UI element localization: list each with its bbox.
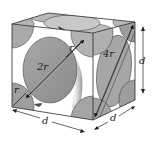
label-2r: 2r xyxy=(36,61,49,72)
fcc-unit-cell-diagram: r r 2r 4r d d d xyxy=(0,0,154,145)
label-d-front: d xyxy=(42,115,48,126)
label-d-side: d xyxy=(110,112,116,123)
label-d-height: d xyxy=(139,55,145,66)
label-4r: 4r xyxy=(102,48,115,59)
